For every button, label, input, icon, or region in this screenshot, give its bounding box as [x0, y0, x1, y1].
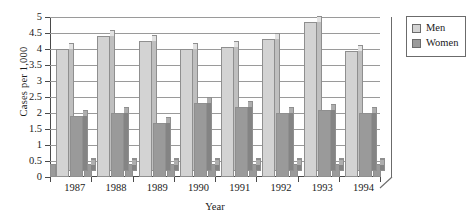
- legend-label-women: Women: [426, 38, 458, 49]
- y-axis-tick-label: 0: [37, 172, 42, 183]
- x-axis-tick: [174, 177, 175, 182]
- bar-face: [111, 113, 124, 177]
- x-axis-label-1994: 1994: [353, 183, 374, 194]
- y-axis-tick-label: 4: [37, 44, 42, 55]
- bar-men-1988: [97, 36, 110, 177]
- bar-top: [234, 41, 239, 47]
- bar-top: [69, 43, 74, 49]
- bar-top: [248, 101, 253, 107]
- bar-women-1993: [318, 110, 331, 177]
- x-axis-label-1988: 1988: [105, 183, 126, 194]
- legend: Men Women: [406, 16, 466, 57]
- bar-top: [207, 97, 212, 103]
- x-axis-label-1990: 1990: [188, 183, 209, 194]
- bar-face: [70, 116, 83, 177]
- bar-face: [139, 41, 152, 177]
- x-axis-tick: [50, 177, 51, 182]
- y-axis-tick-label: 3: [37, 76, 42, 87]
- bar-men-1990: [180, 49, 193, 177]
- bar-group: [215, 17, 256, 177]
- plot-area: 00.511.522.533.544.55: [50, 17, 380, 177]
- bar-side: [248, 101, 253, 171]
- bar-side: [207, 97, 212, 171]
- bar-men-1992: [262, 39, 275, 177]
- bar-group: [133, 17, 174, 177]
- bar-group: [256, 17, 297, 177]
- bar-women-1991: [235, 107, 248, 177]
- y-axis-tick-label: 4.5: [29, 28, 42, 39]
- bar-top: [275, 33, 280, 39]
- bar-top: [289, 107, 294, 113]
- bar-face: [359, 113, 372, 177]
- legend-item-men: Men: [412, 21, 458, 36]
- bar-men-1994: [345, 51, 358, 177]
- x-axis-tick: [256, 177, 257, 182]
- bar-side: [166, 117, 171, 171]
- y-axis-tick-label: 0.5: [29, 156, 42, 167]
- bar-face: [194, 103, 207, 177]
- x-axis-label-1993: 1993: [312, 183, 333, 194]
- legend-item-women: Women: [412, 36, 458, 51]
- bar-side: [372, 107, 377, 171]
- x-axis-label-1989: 1989: [147, 183, 168, 194]
- legend-swatch-women: [412, 39, 421, 48]
- bar-face: [97, 36, 110, 177]
- bar-face: [276, 113, 289, 177]
- bar-face: [318, 110, 331, 177]
- bar-face: [56, 49, 69, 177]
- bar-face: [180, 49, 193, 177]
- y-axis-tick-label: 2: [37, 108, 42, 119]
- x-axis-tick: [215, 177, 216, 182]
- bar-women-1989: [153, 123, 166, 177]
- bar-group: [339, 17, 380, 177]
- bar-face: [235, 107, 248, 177]
- y-axis-tick-label: 2.5: [29, 92, 42, 103]
- bar-top: [110, 30, 115, 36]
- x-axis-label-1987: 1987: [64, 183, 85, 194]
- bar-top: [166, 117, 171, 123]
- bar-top: [124, 107, 129, 113]
- bar-group: [50, 17, 91, 177]
- y-axis-tick-label: 5: [37, 12, 42, 23]
- bar-men-1993: [304, 22, 317, 177]
- bar-top: [331, 104, 336, 110]
- bar-face: [221, 47, 234, 177]
- bar-side: [83, 110, 88, 171]
- legend-label-men: Men: [426, 23, 445, 34]
- bar-top: [358, 45, 363, 51]
- x-axis-tick: [339, 177, 340, 182]
- bar-men-1987: [56, 49, 69, 177]
- bar-top: [152, 35, 157, 41]
- bar-top: [193, 43, 198, 49]
- bar-top: [372, 107, 377, 113]
- x-axis-tick: [133, 177, 134, 182]
- bar-top: [83, 110, 88, 116]
- floor-segment-top: [380, 159, 385, 165]
- legend-swatch-men: [412, 24, 421, 33]
- bar-women-1992: [276, 113, 289, 177]
- bar-group: [91, 17, 132, 177]
- bar-face: [345, 51, 358, 177]
- x-axis-title: Year: [50, 201, 380, 212]
- bar-group: [298, 17, 339, 177]
- bar-side: [124, 107, 129, 171]
- x-axis-tick: [298, 177, 299, 182]
- bar-women-1988: [111, 113, 124, 177]
- bar-face: [153, 123, 166, 177]
- x-axis-labels: 19871988198919901991199219931994: [50, 183, 392, 199]
- chart-figure: Cases per 1,000 00.511.522.533.544.55 19…: [0, 0, 476, 224]
- bar-women-1994: [359, 113, 372, 177]
- bar-men-1991: [221, 47, 234, 177]
- y-axis-tick-label: 1.5: [29, 124, 42, 135]
- bar-top: [317, 16, 322, 22]
- bar-women-1990: [194, 103, 207, 177]
- bar-series-container: [50, 17, 380, 177]
- bar-men-1989: [139, 41, 152, 177]
- y-axis-tick-label: 1: [37, 140, 42, 151]
- y-axis-title: Cases per 1,000: [18, 7, 29, 157]
- x-axis-label-1991: 1991: [229, 183, 250, 194]
- bar-group: [174, 17, 215, 177]
- bar-side: [331, 104, 336, 171]
- x-axis-tick: [380, 177, 381, 182]
- bar-women-1987: [70, 116, 83, 177]
